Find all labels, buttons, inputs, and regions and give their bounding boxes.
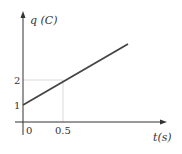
x-tick-0: 0 <box>26 125 32 136</box>
y-tick-1: 1 <box>14 100 20 111</box>
x-axis-label: t(s) <box>153 131 172 144</box>
y-tick-2: 2 <box>14 75 20 86</box>
data-line <box>23 44 128 105</box>
chart: q (C) t(s) 2 1 0 0.5 <box>0 0 182 154</box>
x-tick-0-5: 0.5 <box>55 125 71 136</box>
y-axis-arrow-icon <box>21 11 26 18</box>
y-axis-label: q (C) <box>30 14 58 27</box>
x-axis-arrow-icon <box>160 120 167 125</box>
